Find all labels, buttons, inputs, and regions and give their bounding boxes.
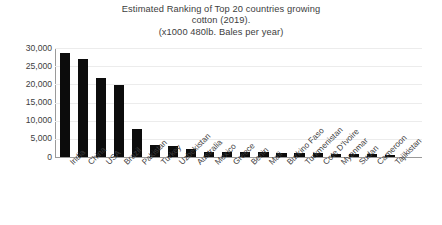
bar[interactable] (78, 59, 88, 157)
gridline (55, 48, 422, 49)
y-axis-tick-label: 10,000 (4, 116, 52, 125)
y-axis-tick-label: 30,000 (4, 44, 52, 53)
chart-title-line-2: cotton (2019). (0, 15, 442, 26)
bar[interactable] (60, 53, 70, 157)
y-axis-tick-label: 15,000 (4, 98, 52, 107)
chart-title-line-1: Estimated Ranking of Top 20 countries gr… (0, 4, 442, 15)
gridline (55, 121, 422, 122)
gridline (55, 103, 422, 104)
y-axis-tick-label: 5,000 (4, 134, 52, 143)
chart-title: Estimated Ranking of Top 20 countries gr… (0, 4, 442, 38)
chart-title-line-3: (x1000 480lb. Bales per year) (0, 27, 442, 38)
chart-container: Estimated Ranking of Top 20 countries gr… (0, 0, 442, 225)
bar[interactable] (114, 85, 124, 157)
y-axis-tick-label: 25,000 (4, 62, 52, 71)
gridline (55, 66, 422, 67)
y-axis-tick-labels: 30,00025,00020,00015,00010,0005,0000 (0, 0, 52, 225)
gridline (55, 84, 422, 85)
y-axis-tick-label: 0 (4, 153, 52, 162)
y-axis-tick-label: 20,000 (4, 80, 52, 89)
